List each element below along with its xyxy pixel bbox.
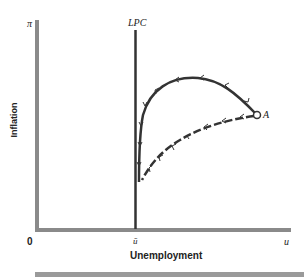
u-label: u <box>284 236 289 247</box>
y-axis-pi-label: π <box>27 18 32 29</box>
dashed-adjustment-path <box>142 116 254 180</box>
dashed-path-arrows <box>149 114 244 172</box>
y-axis <box>35 20 39 232</box>
y-axis-title: Inflation <box>9 98 19 142</box>
origin-label: 0 <box>27 236 33 247</box>
point-a-label: A <box>263 109 269 120</box>
x-axis <box>35 228 291 232</box>
x-axis-title: Unemployment <box>130 250 202 261</box>
u-bar-label: ū <box>133 236 138 246</box>
phillips-curve-chart <box>0 0 304 277</box>
bottom-rule <box>35 272 304 277</box>
point-a-marker <box>254 112 261 119</box>
lpc-label: LPC <box>128 17 146 28</box>
